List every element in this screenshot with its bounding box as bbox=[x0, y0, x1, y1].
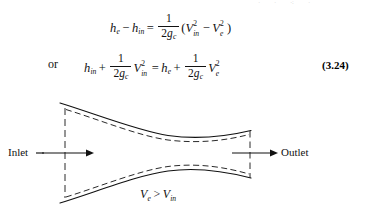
nozzle-svg bbox=[0, 84, 377, 216]
operator-equals: = bbox=[149, 61, 161, 75]
fraction-one-over-two-gc: 12gc bbox=[158, 13, 179, 41]
subscript-in: in bbox=[141, 69, 147, 78]
fraction-numerator: 1 bbox=[185, 53, 206, 65]
operator-plus-2: + bbox=[171, 61, 183, 75]
subscript-in: in bbox=[170, 194, 176, 203]
symbol-V: V bbox=[212, 21, 220, 35]
fraction-denominator: 2gc bbox=[158, 27, 179, 41]
nozzle-figure: Inlet Outlet Ve>Vin bbox=[0, 84, 377, 216]
inlet-label: Inlet bbox=[8, 146, 28, 158]
operator-minus: − bbox=[120, 21, 132, 35]
outlet-label: Outlet bbox=[281, 146, 309, 158]
denominator-symbol-g: g bbox=[167, 27, 173, 39]
superscript-2: 2 bbox=[216, 59, 220, 68]
symbol-h-exit: h bbox=[161, 61, 167, 75]
equation-3-24: hin+12gcVin2=he+12gcVe2 bbox=[84, 53, 216, 81]
operator-equals: = bbox=[144, 21, 156, 35]
superscript-2: 2 bbox=[141, 59, 145, 68]
subscript-in: in bbox=[193, 29, 199, 38]
outlet-arrow-head bbox=[270, 149, 278, 156]
operator-greater-than: > bbox=[151, 187, 163, 201]
denominator-subscript-c: c bbox=[125, 72, 128, 81]
symbol-V: V bbox=[208, 61, 216, 75]
symbol-V-exit: V bbox=[140, 187, 147, 201]
inlet-arrow-head bbox=[86, 149, 94, 156]
term-V-in-squared: Vin2 bbox=[133, 61, 141, 76]
denominator-symbol-g: g bbox=[194, 67, 200, 79]
operator-plus: + bbox=[96, 61, 108, 75]
velocity-relation-label: Ve>Vin bbox=[140, 187, 176, 203]
textbook-page-excerpt: · · ⁖ · he−hin=12gc(Vin2−Ve2) or hin+12g… bbox=[0, 0, 377, 216]
equation-number-3-24: (3.24) bbox=[322, 59, 349, 71]
denominator-subscript-c: c bbox=[200, 72, 203, 81]
cropped-text-sliver: · · ⁖ · bbox=[258, 0, 376, 6]
fraction-numerator: 1 bbox=[110, 53, 131, 65]
term-V-in-squared: Vin2 bbox=[186, 21, 194, 36]
symbol-V: V bbox=[186, 21, 194, 35]
term-V-e-squared: Ve2 bbox=[208, 61, 216, 76]
nozzle-upper-wall-solid bbox=[60, 103, 251, 137]
equation-energy-difference: he−hin=12gc(Vin2−Ve2) bbox=[110, 13, 231, 41]
fraction-denominator: 2gc bbox=[110, 67, 131, 81]
fraction-denominator: 2gc bbox=[185, 67, 206, 81]
superscript-2: 2 bbox=[193, 19, 197, 28]
term-V-e-squared: Ve2 bbox=[212, 21, 220, 36]
operator-minus-2: − bbox=[200, 21, 212, 35]
fraction-one-over-two-gc-left: 12gc bbox=[110, 53, 131, 81]
fraction-one-over-two-gc-right: 12gc bbox=[185, 53, 206, 81]
fraction-numerator: 1 bbox=[158, 13, 179, 25]
connector-or: or bbox=[48, 57, 58, 72]
symbol-V: V bbox=[133, 61, 141, 75]
superscript-2: 2 bbox=[220, 19, 224, 28]
subscript-e: e bbox=[216, 69, 219, 78]
symbol-V-inlet: V bbox=[163, 187, 170, 201]
subscript-e: e bbox=[220, 29, 223, 38]
denominator-subscript-c: c bbox=[173, 32, 176, 41]
right-paren: ) bbox=[227, 21, 231, 35]
